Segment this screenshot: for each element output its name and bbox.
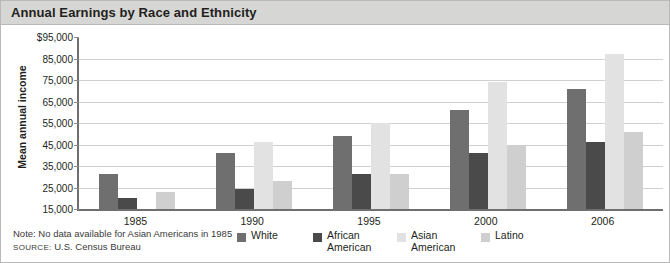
source-label: SOURCE: <box>13 243 52 252</box>
chart-title: Annual Earnings by Race and Ethnicity <box>11 5 257 20</box>
bar <box>216 153 235 209</box>
y-tick-mark <box>74 145 79 146</box>
source-line: SOURCE: U.S. Census Bureau <box>13 241 232 254</box>
bar <box>333 136 352 209</box>
legend-swatch <box>481 233 490 242</box>
y-tick-mark <box>74 166 79 167</box>
y-tick-mark <box>74 80 79 81</box>
source-value: U.S. Census Bureau <box>54 241 141 252</box>
bar <box>273 181 292 209</box>
bar <box>507 145 526 210</box>
legend-swatch <box>397 233 406 242</box>
chart-footer: Note: No data available for Asian Americ… <box>1 206 670 263</box>
bar <box>488 82 507 209</box>
bar-group <box>216 37 292 209</box>
y-tick-mark <box>74 123 79 124</box>
bar-group <box>99 37 175 209</box>
y-tick-label: 85,000 <box>19 53 73 64</box>
y-tick-mark <box>74 37 79 38</box>
legend-swatch <box>237 233 246 242</box>
bar <box>469 153 488 209</box>
y-tick-mark <box>74 188 79 189</box>
y-tick-mark <box>74 59 79 60</box>
y-tick-label: 75,000 <box>19 75 73 86</box>
note-block: Note: No data available for Asian Americ… <box>13 228 232 254</box>
y-tick-label: 35,000 <box>19 161 73 172</box>
legend-label: Asian American <box>411 229 455 253</box>
legend-label: African American <box>327 229 371 253</box>
bar <box>99 174 118 209</box>
bar <box>352 174 371 209</box>
note-text: Note: No data available for Asian Americ… <box>13 228 232 241</box>
y-tick-mark <box>74 102 79 103</box>
bar <box>586 142 605 209</box>
y-tick-label: 25,000 <box>19 182 73 193</box>
chart-title-bar: Annual Earnings by Race and Ethnicity <box>1 1 670 25</box>
plot-box <box>77 37 663 211</box>
bar <box>605 54 624 209</box>
legend-swatch <box>313 233 322 242</box>
y-tick-label: $95,000 <box>19 32 73 43</box>
bar <box>254 142 273 209</box>
bar <box>567 89 586 209</box>
bar <box>371 123 390 209</box>
legend-label: White <box>251 229 278 241</box>
bar-group <box>333 37 409 209</box>
bar-group <box>567 37 643 209</box>
bar <box>624 132 643 209</box>
bar <box>390 174 409 209</box>
y-axis-tick-labels: $95,00085,00075,00065,00055,00045,00035,… <box>19 25 73 225</box>
y-tick-label: 45,000 <box>19 139 73 150</box>
bar <box>450 110 469 209</box>
y-tick-label: 65,000 <box>19 96 73 107</box>
legend-label: Latino <box>495 229 524 241</box>
chart-figure: Annual Earnings by Race and Ethnicity Me… <box>0 0 670 263</box>
y-tick-label: 55,000 <box>19 118 73 129</box>
bar-group <box>450 37 526 209</box>
